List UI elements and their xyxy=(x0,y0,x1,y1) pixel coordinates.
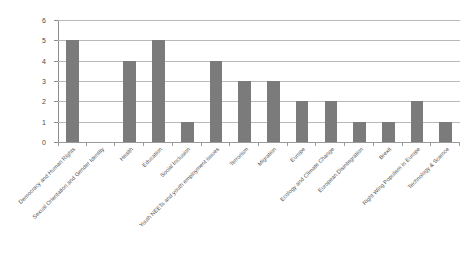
y-tick-label-6: 6 xyxy=(42,17,46,24)
bar-slot xyxy=(115,20,144,142)
bar-slot xyxy=(374,20,403,142)
bar-chart: 0123456 Democracy and Human RightsSexual… xyxy=(0,0,471,256)
bar-slot xyxy=(431,20,460,142)
bar-slot xyxy=(345,20,374,142)
y-tick-mark-4 xyxy=(54,61,58,62)
bar[interactable] xyxy=(123,61,136,142)
bar-slot xyxy=(87,20,116,142)
bar-slot xyxy=(173,20,202,142)
bar-slot xyxy=(403,20,432,142)
x-axis-label: Brexit xyxy=(378,146,393,161)
x-axis-label: Ecology and Climate Change xyxy=(279,146,336,203)
y-tick-mark-2 xyxy=(54,101,58,102)
x-axis-label: Right Wing Populism in Europe xyxy=(361,146,422,207)
y-axis-tick-labels: 0123456 xyxy=(0,20,52,142)
plot-area xyxy=(58,20,460,142)
bar-slot xyxy=(288,20,317,142)
x-axis-label: Terrorism xyxy=(228,146,250,168)
bar[interactable] xyxy=(267,81,280,142)
bar[interactable] xyxy=(181,122,194,142)
y-tick-mark-5 xyxy=(54,40,58,41)
x-axis-category-labels: Democracy and Human RightsSexual Orienta… xyxy=(58,146,460,254)
x-axis-label: Health xyxy=(118,146,135,163)
bar[interactable] xyxy=(439,122,452,142)
x-axis-label: Democracy and Human Rights xyxy=(18,146,78,206)
bar[interactable] xyxy=(238,81,251,142)
x-axis-label: Education xyxy=(141,146,164,169)
bar[interactable] xyxy=(296,101,309,142)
y-tick-mark-0 xyxy=(54,142,58,143)
y-tick-mark-6 xyxy=(54,20,58,21)
bar[interactable] xyxy=(411,101,424,142)
bar-slot xyxy=(316,20,345,142)
y-tick-label-3: 3 xyxy=(42,78,46,85)
y-tick-label-2: 2 xyxy=(42,98,46,105)
bar[interactable] xyxy=(353,122,366,142)
bar[interactable] xyxy=(325,101,338,142)
bar-slot xyxy=(230,20,259,142)
bar[interactable] xyxy=(382,122,395,142)
bar-slot xyxy=(58,20,87,142)
x-axis-label: Migration xyxy=(257,146,279,168)
y-tick-mark-3 xyxy=(54,81,58,82)
y-tick-label-0: 0 xyxy=(42,139,46,146)
y-tick-label-1: 1 xyxy=(42,118,46,125)
y-tick-label-5: 5 xyxy=(42,37,46,44)
bar-slot xyxy=(259,20,288,142)
bar[interactable] xyxy=(152,40,165,142)
bar-slot xyxy=(144,20,173,142)
y-tick-label-4: 4 xyxy=(42,57,46,64)
bar-series xyxy=(58,20,460,142)
bar[interactable] xyxy=(66,40,79,142)
bar-slot xyxy=(202,20,231,142)
bar[interactable] xyxy=(210,61,223,142)
y-tick-mark-1 xyxy=(54,122,58,123)
x-axis-label: Europe xyxy=(289,146,307,164)
